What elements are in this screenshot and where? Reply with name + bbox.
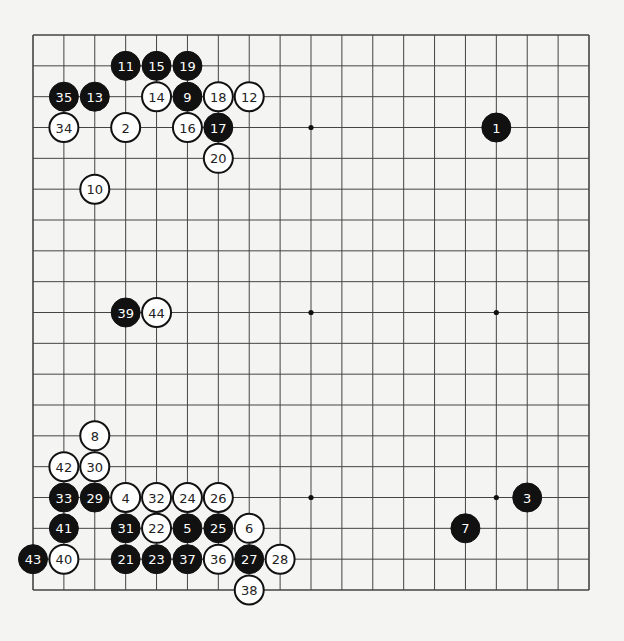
stone-white-6: 6 <box>235 514 264 543</box>
move-number: 33 <box>56 491 73 506</box>
stone-white-30: 30 <box>80 452 109 481</box>
move-number: 25 <box>210 521 227 536</box>
stone-black-39: 39 <box>111 298 140 327</box>
move-number: 29 <box>87 491 104 506</box>
move-number: 28 <box>272 552 289 567</box>
stone-black-23: 23 <box>142 545 171 574</box>
move-number: 44 <box>148 306 165 321</box>
move-number: 39 <box>117 306 134 321</box>
move-number: 20 <box>210 151 227 166</box>
stone-black-19: 19 <box>173 51 202 80</box>
move-number: 11 <box>117 59 134 74</box>
star-point <box>308 310 313 315</box>
move-number: 10 <box>87 182 104 197</box>
stone-white-36: 36 <box>204 545 233 574</box>
star-point <box>308 495 313 500</box>
move-number: 24 <box>179 491 196 506</box>
stone-black-43: 43 <box>19 545 48 574</box>
stone-white-44: 44 <box>142 298 171 327</box>
move-number: 18 <box>210 90 227 105</box>
stone-white-42: 42 <box>49 452 78 481</box>
go-board[interactable]: 1234567891011121314151617181920212223242… <box>0 0 624 641</box>
move-number: 34 <box>56 121 73 136</box>
move-number: 7 <box>461 521 469 536</box>
move-number: 40 <box>56 552 73 567</box>
stone-white-18: 18 <box>204 82 233 111</box>
move-number: 43 <box>25 552 42 567</box>
stone-white-10: 10 <box>80 175 109 204</box>
stone-white-28: 28 <box>266 545 295 574</box>
stone-black-41: 41 <box>49 514 78 543</box>
stone-white-16: 16 <box>173 113 202 142</box>
stone-black-33: 33 <box>49 483 78 512</box>
stone-black-3: 3 <box>513 483 542 512</box>
move-number: 1 <box>492 121 500 136</box>
move-number: 27 <box>241 552 258 567</box>
move-number: 37 <box>179 552 196 567</box>
move-number: 38 <box>241 583 258 598</box>
stone-black-15: 15 <box>142 51 171 80</box>
move-number: 19 <box>179 59 196 74</box>
stone-black-37: 37 <box>173 545 202 574</box>
move-number: 3 <box>523 491 531 506</box>
stone-black-11: 11 <box>111 51 140 80</box>
move-number: 41 <box>56 521 73 536</box>
move-number: 14 <box>148 90 165 105</box>
move-number: 4 <box>122 491 130 506</box>
move-number: 35 <box>56 90 73 105</box>
stone-white-2: 2 <box>111 113 140 142</box>
stone-white-38: 38 <box>235 576 264 605</box>
move-number: 21 <box>117 552 134 567</box>
star-point <box>494 310 499 315</box>
move-number: 13 <box>87 90 104 105</box>
move-number: 16 <box>179 121 196 136</box>
stone-white-26: 26 <box>204 483 233 512</box>
move-number: 31 <box>117 521 134 536</box>
stone-black-21: 21 <box>111 545 140 574</box>
move-number: 6 <box>245 521 253 536</box>
stone-white-8: 8 <box>80 421 109 450</box>
move-number: 22 <box>148 521 165 536</box>
stone-white-22: 22 <box>142 514 171 543</box>
stone-white-14: 14 <box>142 82 171 111</box>
move-number: 32 <box>148 491 165 506</box>
stone-white-24: 24 <box>173 483 202 512</box>
stone-white-40: 40 <box>49 545 78 574</box>
move-number: 12 <box>241 90 258 105</box>
move-number: 26 <box>210 491 227 506</box>
stone-black-35: 35 <box>49 82 78 111</box>
stone-black-27: 27 <box>235 545 264 574</box>
stone-black-17: 17 <box>204 113 233 142</box>
stone-white-20: 20 <box>204 144 233 173</box>
stone-black-7: 7 <box>451 514 480 543</box>
stone-black-5: 5 <box>173 514 202 543</box>
move-number: 8 <box>91 429 99 444</box>
stone-white-32: 32 <box>142 483 171 512</box>
move-number: 15 <box>148 59 165 74</box>
stone-white-12: 12 <box>235 82 264 111</box>
star-point <box>308 125 313 130</box>
stone-black-9: 9 <box>173 82 202 111</box>
move-number: 42 <box>56 460 73 475</box>
stone-black-31: 31 <box>111 514 140 543</box>
move-number: 36 <box>210 552 227 567</box>
move-number: 2 <box>122 121 130 136</box>
star-point <box>494 495 499 500</box>
stone-black-13: 13 <box>80 82 109 111</box>
stone-black-25: 25 <box>204 514 233 543</box>
move-number: 23 <box>148 552 165 567</box>
stone-white-34: 34 <box>49 113 78 142</box>
move-number: 30 <box>87 460 104 475</box>
move-number: 17 <box>210 121 227 136</box>
stone-white-4: 4 <box>111 483 140 512</box>
stone-black-1: 1 <box>482 113 511 142</box>
move-number: 9 <box>183 90 191 105</box>
stone-black-29: 29 <box>80 483 109 512</box>
move-number: 5 <box>183 521 191 536</box>
